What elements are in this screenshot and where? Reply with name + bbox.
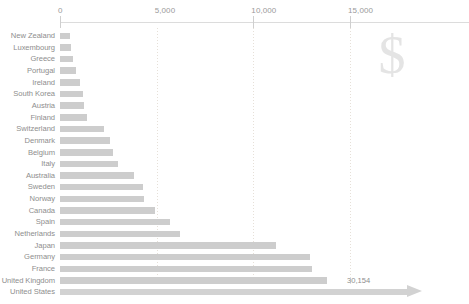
bar (60, 289, 407, 296)
bar (60, 242, 276, 249)
category-label: Denmark (0, 135, 55, 146)
category-label: Spain (0, 216, 55, 227)
bar (60, 172, 134, 179)
axis-tick-label: 10,000 (251, 6, 276, 15)
chart-row: New Zealand (0, 30, 469, 41)
bar (60, 149, 113, 156)
bar (60, 161, 118, 168)
bar-overflow-arrow-icon (407, 285, 422, 297)
chart-row: Spain (0, 216, 469, 227)
chart-row: Netherlands (0, 228, 469, 239)
bar (60, 196, 144, 203)
bar (60, 184, 143, 191)
category-label: Ireland (0, 77, 55, 88)
bar (60, 114, 87, 121)
chart-row: South Korea (0, 88, 469, 99)
category-label: United States (0, 286, 55, 297)
bar (60, 231, 180, 238)
axis-tick-label: 5,000 (155, 6, 176, 15)
chart-row: Japan (0, 240, 469, 251)
axis-tick-mark (350, 16, 351, 28)
category-label: Canada (0, 205, 55, 216)
bar (60, 277, 327, 284)
bar (60, 207, 155, 214)
category-label: Austria (0, 100, 55, 111)
bar (60, 266, 312, 273)
category-label: France (0, 263, 55, 274)
category-label: Netherlands (0, 228, 55, 239)
chart-row: France (0, 263, 469, 274)
chart-row: Switzerland (0, 123, 469, 134)
chart-row: Italy (0, 158, 469, 169)
axis-tick-label: 0 (58, 6, 63, 15)
category-label: Switzerland (0, 123, 55, 134)
chart-row: Portugal (0, 65, 469, 76)
bar (60, 67, 76, 74)
category-label: Greece (0, 53, 55, 64)
bar-value-label: 30,154 (347, 276, 370, 286)
bar (60, 254, 310, 261)
category-label: Norway (0, 193, 55, 204)
category-label: Australia (0, 170, 55, 181)
category-label: United Kingdom (0, 275, 55, 286)
chart-row: United States30,154 (0, 286, 469, 297)
chart-row: Belgium (0, 147, 469, 158)
bar (60, 91, 83, 98)
category-label: Luxembourg (0, 42, 55, 53)
category-label: Japan (0, 240, 55, 251)
axis-tick-mark (60, 16, 61, 28)
bar (60, 137, 110, 144)
bar (60, 33, 70, 40)
chart-row: Australia (0, 170, 469, 181)
category-label: Sweden (0, 181, 55, 192)
axis-tick-label: 15,000 (348, 6, 373, 15)
bar (60, 102, 84, 109)
category-label: Finland (0, 112, 55, 123)
chart-row: Ireland (0, 77, 469, 88)
x-axis: 05,00010,00015,000 (0, 0, 469, 30)
chart-row: United Kingdom (0, 275, 469, 286)
chart-row: Luxembourg (0, 42, 469, 53)
category-label: Belgium (0, 147, 55, 158)
chart-row: Canada (0, 205, 469, 216)
bar-chart: $ 05,00010,00015,000 New ZealandLuxembou… (0, 0, 469, 304)
chart-row: Denmark (0, 135, 469, 146)
chart-row: Finland (0, 112, 469, 123)
chart-row: Austria (0, 100, 469, 111)
axis-line (60, 22, 469, 23)
chart-row: Greece (0, 53, 469, 64)
category-label: Italy (0, 158, 55, 169)
axis-tick-mark (253, 16, 254, 28)
bar (60, 56, 73, 63)
category-label: South Korea (0, 88, 55, 99)
category-label: Portugal (0, 65, 55, 76)
category-label: New Zealand (0, 30, 55, 41)
plot-area: New ZealandLuxembourgGreecePortugalIrela… (0, 30, 469, 298)
bar (60, 126, 104, 133)
bar (60, 219, 170, 226)
chart-row: Germany (0, 251, 469, 262)
bar (60, 44, 71, 51)
chart-row: Norway (0, 193, 469, 204)
category-label: Germany (0, 251, 55, 262)
bar (60, 79, 80, 86)
chart-row: Sweden (0, 181, 469, 192)
